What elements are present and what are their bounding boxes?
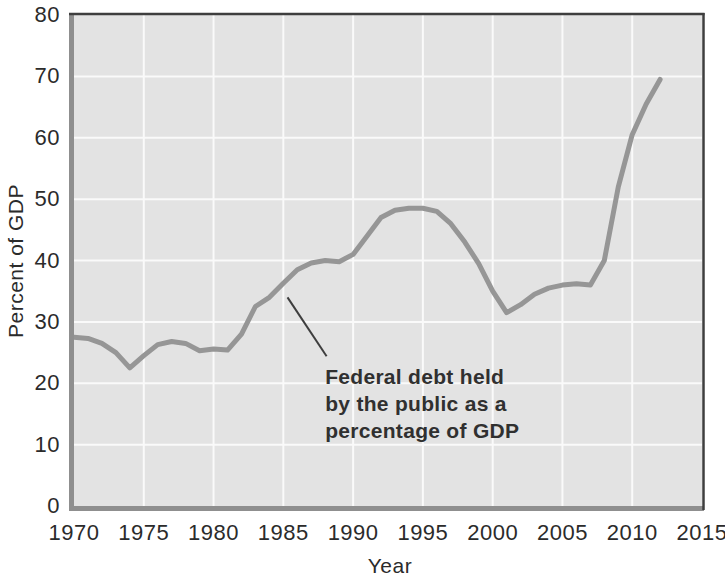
x-tick-label: 1985: [246, 520, 320, 546]
y-tick-label: 0: [16, 493, 60, 519]
y-tick-label: 80: [16, 2, 60, 28]
annotation-text-line: Federal debt held: [325, 363, 519, 390]
y-tick-label: 10: [16, 432, 60, 458]
x-tick-label: 1975: [107, 520, 181, 546]
y-axis-title: Percent of GDP: [4, 183, 28, 337]
x-axis-title: Year: [368, 554, 412, 578]
series-annotation-label: Federal debt heldby the public as aperce…: [325, 363, 519, 444]
annotation-text-line: by the public as a: [325, 390, 519, 417]
debt-gdp-line-chart-figure: 01020304050607080 1970197519801985199019…: [0, 0, 725, 584]
annotation-text-line: percentage of GDP: [325, 417, 519, 444]
y-tick-label: 20: [16, 370, 60, 396]
x-tick-label: 2015: [665, 520, 725, 546]
x-tick-label: 2010: [595, 520, 669, 546]
x-tick-label: 2000: [456, 520, 530, 546]
x-tick-label: 1990: [316, 520, 390, 546]
y-tick-label: 70: [16, 63, 60, 89]
x-tick-label: 1980: [177, 520, 251, 546]
line-chart-canvas: [0, 0, 725, 584]
y-tick-label: 60: [16, 125, 60, 151]
x-tick-label: 1995: [386, 520, 460, 546]
x-tick-label: 2005: [525, 520, 599, 546]
x-tick-label: 1970: [37, 520, 111, 546]
